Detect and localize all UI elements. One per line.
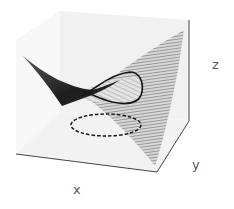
y-axis-label: y	[192, 158, 200, 171]
x-axis-label: x	[73, 183, 81, 196]
z-axis-label: z	[212, 58, 219, 71]
surface-plot-3d	[0, 0, 234, 209]
